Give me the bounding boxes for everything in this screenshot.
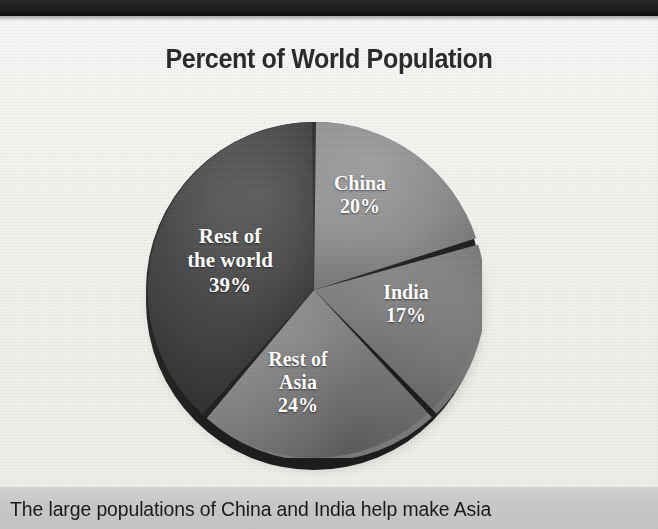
pie-slices	[146, 122, 482, 458]
pie-chart	[146, 122, 482, 458]
page-title: Percent of World Population	[23, 44, 635, 75]
figure-caption: The large populations of China and India…	[10, 498, 631, 521]
page-top-black-bar	[0, 0, 658, 16]
figure-page: Percent of World Population	[0, 0, 658, 529]
page-top-bar-shadow	[0, 16, 658, 21]
